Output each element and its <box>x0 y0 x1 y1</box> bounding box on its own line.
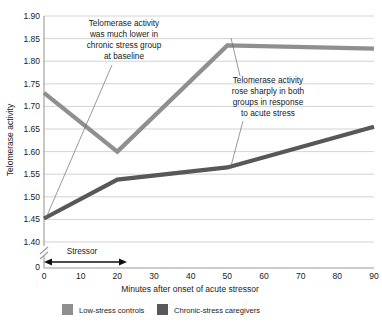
x-tick-label: 40 <box>186 271 196 281</box>
y-tick-label: 1.80 <box>23 56 40 66</box>
chart-legend: Low-stress controls Chronic-stress careg… <box>62 304 260 315</box>
y-tick-label: 1.85 <box>23 34 40 44</box>
annotation-acute-stress-note: Telomerase activity rose sharply in both… <box>231 38 305 166</box>
x-tick-label: 70 <box>296 271 306 281</box>
y-tick-label: 1.55 <box>23 169 40 179</box>
y-tick-label: 1.90 <box>23 11 40 21</box>
annotation-line: groups in response <box>233 97 304 107</box>
x-tick-label: 30 <box>149 271 159 281</box>
stressor-arrow-head-right <box>119 258 127 265</box>
stressor-label: Stressor <box>67 247 98 256</box>
x-tick-label: 80 <box>333 271 343 281</box>
annotation-line: Telomerase activity <box>89 18 160 28</box>
y-tick-label: 1.75 <box>23 79 40 89</box>
y-tick-label: 1.70 <box>23 101 40 111</box>
annotation-leader-line-lower <box>231 121 243 166</box>
y-axis-title: Telomerase activity <box>5 103 15 176</box>
annotation-line: at baseline <box>104 51 145 61</box>
y-tick-label-zero: 0 <box>35 262 40 272</box>
x-tick-label: 90 <box>369 271 379 281</box>
chart-figure: 1.90 1.85 1.80 1.75 1.70 1.65 1.60 1.55 … <box>0 0 382 330</box>
stressor-arrow-head-left <box>44 258 52 265</box>
legend-label-low-stress-controls: Low-stress controls <box>79 306 145 315</box>
annotation-line: rose sharply in both <box>232 86 305 96</box>
legend-swatch-low-stress-controls <box>62 304 73 315</box>
x-tick-label: 20 <box>113 271 123 281</box>
annotation-line: was much lower in <box>89 29 159 39</box>
x-tick-label: 50 <box>223 271 233 281</box>
y-tick-label: 1.60 <box>23 147 40 157</box>
annotation-line: Telomerase activity <box>233 75 304 85</box>
x-tick-label: 60 <box>259 271 269 281</box>
x-tick-label: 0 <box>42 271 47 281</box>
y-tick-label: 1.50 <box>23 192 40 202</box>
stressor-span-marker: Stressor <box>44 247 127 266</box>
line-chart: 1.90 1.85 1.80 1.75 1.70 1.65 1.60 1.55 … <box>0 0 382 330</box>
legend-label-chronic-stress-caregivers: Chronic-stress caregivers <box>174 306 260 315</box>
annotation-line: chronic stress group <box>87 40 162 50</box>
y-tick-labels: 1.90 1.85 1.80 1.75 1.70 1.65 1.60 1.55 … <box>23 11 40 272</box>
legend-swatch-chronic-stress-caregivers <box>157 304 168 315</box>
x-tick-label: 10 <box>76 271 86 281</box>
x-axis-title: Minutes after onset of acute stressor <box>121 284 259 294</box>
series-line-chronic-stress-caregivers <box>44 127 374 219</box>
y-tick-label: 1.40 <box>23 237 40 247</box>
x-tick-labels: 0 10 20 30 40 50 60 70 80 90 <box>42 271 379 281</box>
y-tick-label: 1.45 <box>23 214 40 224</box>
y-tick-label: 1.65 <box>23 124 40 134</box>
annotation-line: to acute stress <box>241 108 295 118</box>
